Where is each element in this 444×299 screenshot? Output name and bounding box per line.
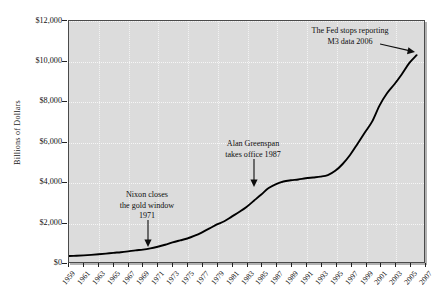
y-tick-mark — [62, 142, 67, 143]
x-tick-mark — [98, 263, 99, 267]
x-tick-mark — [395, 263, 396, 267]
y-tick-mark — [62, 101, 67, 102]
y-tick-label: $10,000 — [16, 56, 62, 65]
x-tick-mark — [261, 263, 262, 267]
x-tick-mark — [380, 263, 381, 267]
y-tick-mark — [62, 263, 67, 264]
x-tick-mark — [306, 263, 307, 267]
annotation-fed-m3: The Fed stops reporting M3 data 2006 — [288, 26, 412, 47]
y-tick-mark — [62, 223, 67, 224]
x-tick-mark — [276, 263, 277, 267]
annotation-nixon-line2: the gold window — [105, 201, 189, 212]
x-tick-mark — [291, 263, 292, 267]
x-tick-mark — [425, 263, 426, 267]
x-tick-mark — [187, 263, 188, 267]
y-tick-mark — [62, 182, 67, 183]
y-tick-label: $6,000 — [16, 137, 62, 146]
annotation-greenspan: Alan Greenspan takes office 1987 — [200, 139, 306, 160]
x-tick-mark — [217, 263, 218, 267]
y-tick-label: $4,000 — [16, 177, 62, 186]
x-tick-mark — [410, 263, 411, 267]
x-tick-mark — [321, 263, 322, 267]
x-tick-mark — [128, 263, 129, 267]
y-tick-label: $0 — [16, 258, 62, 267]
annotation-nixon: Nixon closes the gold window 1971 — [105, 190, 189, 222]
x-tick-mark — [83, 263, 84, 267]
annotation-fed-m3-line1: The Fed stops reporting — [288, 26, 412, 37]
x-tick-mark — [232, 263, 233, 267]
y-tick-mark — [62, 61, 67, 62]
y-axis-tick-labels: $12,000 $10,000 $8,000 $6,000 $4,000 $2,… — [14, 0, 62, 299]
x-tick-mark — [113, 263, 114, 267]
y-tick-label: $12,000 — [16, 16, 62, 25]
annotation-greenspan-line1: Alan Greenspan — [200, 139, 306, 150]
annotation-fed-m3-line2: M3 data 2006 — [288, 37, 412, 48]
x-tick-mark — [142, 263, 143, 267]
x-tick-mark — [366, 263, 367, 267]
x-tick-mark — [68, 263, 69, 267]
annotation-greenspan-line2: takes office 1987 — [200, 150, 306, 161]
x-tick-mark — [336, 263, 337, 267]
annotation-nixon-line3: 1971 — [105, 211, 189, 222]
x-tick-mark — [172, 263, 173, 267]
x-tick-mark — [202, 263, 203, 267]
y-tick-label: $8,000 — [16, 96, 62, 105]
x-tick-mark — [351, 263, 352, 267]
y-tick-label: $2,000 — [16, 218, 62, 227]
chart-figure: Billions of Dollars $12,000 $10,000 $8,0… — [0, 0, 444, 299]
annotation-nixon-line1: Nixon closes — [105, 190, 189, 201]
x-tick-mark — [247, 263, 248, 267]
y-tick-mark — [62, 20, 67, 21]
x-tick-mark — [157, 263, 158, 267]
x-axis: 1959196119631965196719691971197319751977… — [68, 263, 425, 299]
